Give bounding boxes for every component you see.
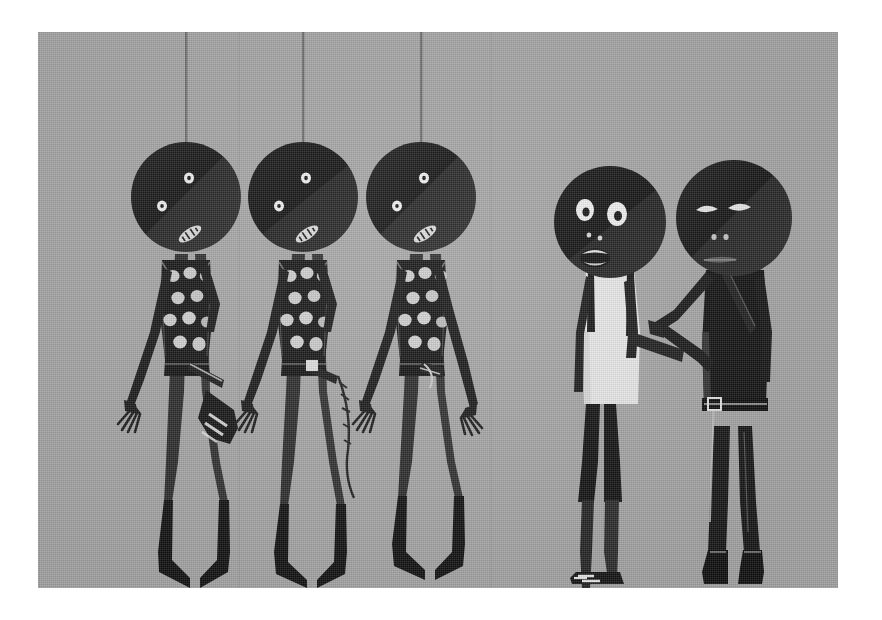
scene-illustration (38, 32, 838, 588)
sneaker-standing (570, 572, 624, 584)
artwork-canvas (38, 32, 838, 588)
screenshot-root: Three Hanging Figures and Two Standing F… (0, 0, 882, 620)
artwork-title: Three Hanging Figures and Two Standing F… (0, 0, 1, 1)
belt (702, 398, 768, 411)
artwork-medium-note: monochrome illustration on textured grey… (0, 0, 1, 1)
artwork-caption (0, 0, 1, 1)
